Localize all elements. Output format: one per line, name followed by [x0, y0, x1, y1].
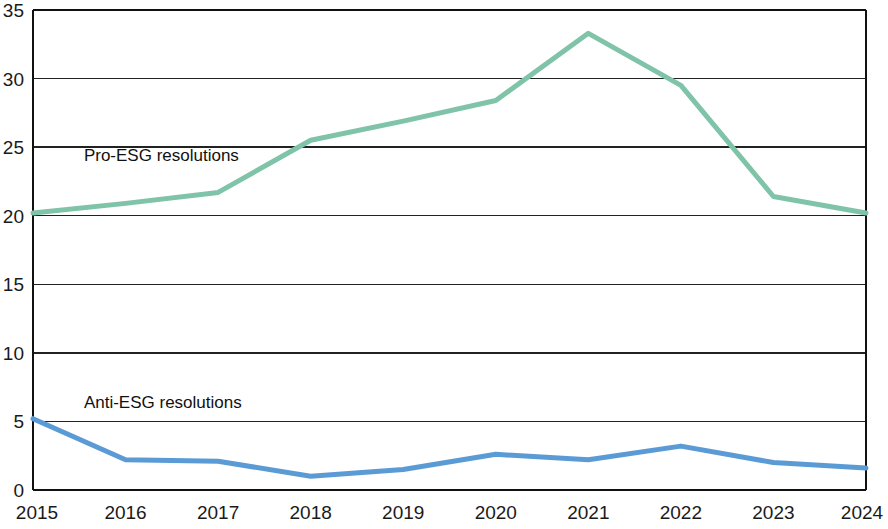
y-tick-label-5: 5 — [13, 411, 24, 432]
pro-esg-label: Pro-ESG resolutions — [84, 146, 239, 165]
chart-canvas: 05101520253035 2015201620172018201920202… — [0, 0, 888, 529]
y-tick-label-25: 25 — [3, 137, 24, 158]
x-tick-label-2021: 2021 — [567, 502, 609, 523]
y-tick-label-35: 35 — [3, 0, 24, 21]
x-tick-label-2019: 2019 — [382, 502, 424, 523]
y-tick-label-15: 15 — [3, 274, 24, 295]
y-tick-label-20: 20 — [3, 206, 24, 227]
x-tick-label-2022: 2022 — [660, 502, 702, 523]
anti-esg-label: Anti-ESG resolutions — [84, 393, 242, 412]
x-tick-label-2020: 2020 — [475, 502, 517, 523]
x-tick-label-2016: 2016 — [104, 502, 146, 523]
x-tick-label-2017: 2017 — [197, 502, 239, 523]
chart-background — [0, 0, 888, 529]
x-tick-label-2023: 2023 — [752, 502, 794, 523]
x-tick-label-2015: 2015 — [16, 502, 58, 523]
line-chart: 05101520253035 2015201620172018201920202… — [0, 0, 888, 529]
y-tick-label-30: 30 — [3, 69, 24, 90]
x-tick-label-2024: 2024 — [841, 502, 884, 523]
y-tick-label-0: 0 — [13, 480, 24, 501]
x-tick-label-2018: 2018 — [290, 502, 332, 523]
y-tick-label-10: 10 — [3, 343, 24, 364]
